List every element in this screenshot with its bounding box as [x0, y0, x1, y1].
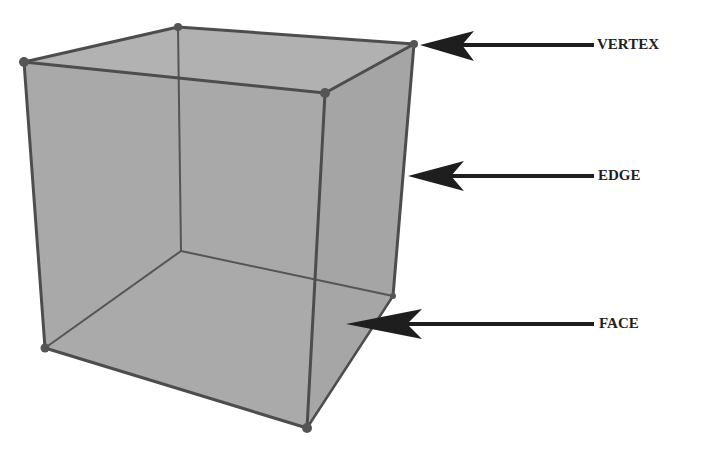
cube-faces — [24, 27, 414, 428]
vertex-dot — [302, 423, 312, 433]
vertex-dot — [410, 40, 418, 48]
face-arrow-icon — [346, 309, 594, 339]
face-label: FACE — [599, 315, 639, 332]
vertex-dot — [390, 293, 396, 299]
vertex-dot — [41, 344, 50, 353]
edge-arrow-icon — [408, 161, 594, 191]
front-face — [24, 62, 325, 428]
vertex-dot — [19, 57, 29, 67]
cube-diagram: VERTEX EDGE FACE — [0, 0, 706, 453]
vertex-arrow-icon — [420, 31, 594, 61]
vertex-label: VERTEX — [597, 36, 659, 53]
vertex-dot — [174, 23, 182, 31]
vertex-dot — [320, 88, 330, 98]
edge-label: EDGE — [598, 167, 641, 184]
cube-illustration — [0, 0, 706, 453]
